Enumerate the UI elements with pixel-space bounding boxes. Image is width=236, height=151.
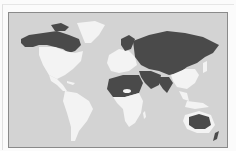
region-japan: [203, 61, 207, 73]
region-sub-saharan-africa: [113, 93, 143, 127]
region-europe: [107, 49, 137, 73]
region-scandinavia: [121, 35, 135, 51]
region-usa: [39, 47, 83, 79]
world-map: [8, 12, 228, 148]
region-india: [159, 77, 173, 93]
region-greenland: [77, 21, 105, 43]
region-sahara-spot: [123, 89, 131, 93]
region-south-america: [63, 91, 93, 141]
region-new-zealand: [213, 131, 219, 141]
map-svg: [9, 13, 227, 147]
region-southeast-asia: [179, 91, 209, 109]
region-madagascar: [143, 111, 146, 119]
region-arctic-islands: [51, 23, 69, 31]
region-caribbean: [67, 81, 75, 85]
region-middle-east: [139, 71, 161, 89]
